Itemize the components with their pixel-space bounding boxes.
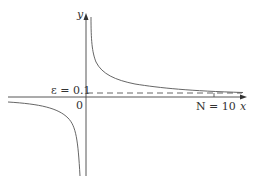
chart: y x 0 ε = 0.1 N = 10 (0, 0, 257, 188)
curve-positive (91, 17, 243, 93)
n-label: N = 10 (196, 100, 236, 113)
y-axis-arrow-icon (84, 13, 89, 20)
epsilon-label: ε = 0.1 (51, 84, 90, 97)
curve-negative (8, 102, 80, 176)
x-axis-label: x (240, 100, 247, 113)
y-axis-label: y (76, 8, 84, 21)
x-axis-arrow-icon (240, 95, 247, 100)
origin-label: 0 (76, 99, 83, 112)
